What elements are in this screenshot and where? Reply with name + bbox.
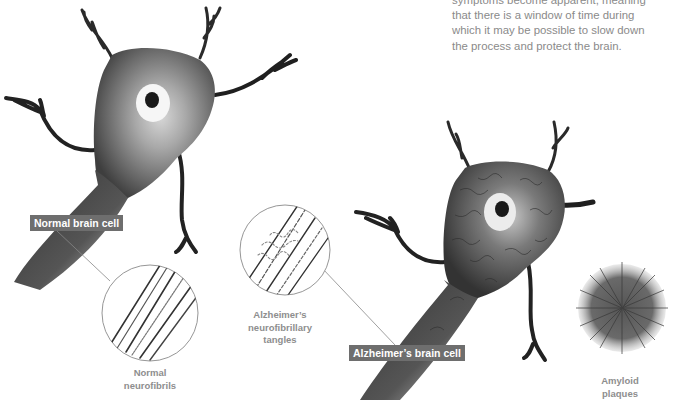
leader-line-alzheimers (322, 268, 395, 345)
normal-brain-cell-label: Normal brain cell (30, 215, 123, 231)
normal-neurofibrils-inset (102, 262, 198, 361)
illustration-canvas (0, 0, 693, 400)
alzheimers-brain-cell-label: Alzheimer’s brain cell (349, 345, 465, 361)
intro-line: which it may be possible to slow down (452, 23, 692, 38)
intro-line: that there is a window of time during (452, 8, 692, 23)
neurofibrillary-tangles-caption: Alzheimer’s neurofibrillary tangles (240, 309, 320, 347)
intro-line: symptoms become apparent, meaning (452, 0, 692, 8)
amyloid-plaques-caption: Amyloid plaques (590, 375, 650, 400)
amyloid-plaque-illustration (576, 262, 668, 354)
normal-neurofibrils-caption: Normal neurofibrils (115, 367, 185, 392)
neurofibrillary-tangles-inset (240, 205, 330, 298)
intro-paragraph: symptoms become apparent, meaning that t… (452, 0, 692, 54)
intro-line: the process and protect the brain. (452, 39, 692, 54)
